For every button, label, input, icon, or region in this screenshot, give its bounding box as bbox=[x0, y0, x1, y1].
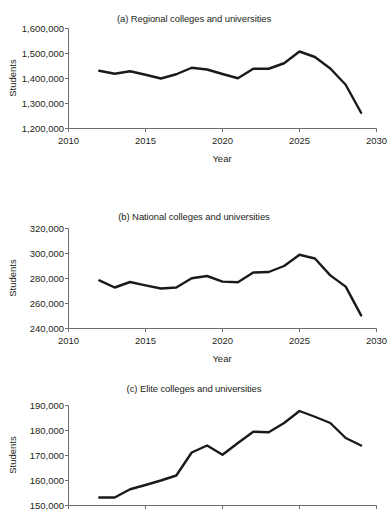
panel-a-xtick-0: 2010 bbox=[58, 135, 79, 146]
panel-a-xtick-1: 2015 bbox=[135, 135, 156, 146]
panel-a-ytick-2: 1,400,000 bbox=[22, 73, 64, 84]
panel-a-ytick-3: 1,500,000 bbox=[22, 48, 64, 59]
panel-c-ytick-4: 190,000 bbox=[30, 400, 64, 411]
panel-c-series-line bbox=[99, 411, 361, 498]
panel-c-ylabel: Students bbox=[7, 436, 18, 474]
panel-c-ytick-2: 170,000 bbox=[30, 450, 64, 461]
panel-b-ytick-2: 280,000 bbox=[30, 273, 64, 284]
panel-b-ylabel: Students bbox=[7, 259, 18, 297]
panel-a-plot: 1,600,000 1,500,000 1,400,000 1,300,000 … bbox=[0, 0, 388, 180]
panel-b-series-line bbox=[99, 255, 361, 316]
panel-c-ytick-0: 150,000 bbox=[30, 500, 64, 511]
panel-c-ytick-3: 180,000 bbox=[30, 425, 64, 436]
panel-a-xtick-3: 2025 bbox=[289, 135, 310, 146]
panel-b-ytick-0: 240,000 bbox=[30, 323, 64, 334]
panel-b-xlabel: Year bbox=[212, 353, 231, 364]
panel-a-xtick-4: 2030 bbox=[366, 135, 387, 146]
panel-a-series-line bbox=[99, 52, 361, 113]
panel-a-ytick-4: 1,600,000 bbox=[22, 23, 64, 34]
chart-panel-c: (c) Elite colleges and universities 190,… bbox=[0, 365, 388, 522]
panel-b-xtick-4: 2030 bbox=[366, 335, 387, 346]
panel-b-xtick-3: 2025 bbox=[289, 335, 310, 346]
chart-panel-a: (a) Regional colleges and universities 1… bbox=[0, 0, 388, 180]
panel-b-ytick-4: 320,000 bbox=[30, 223, 64, 234]
panel-a-ylabel: Students bbox=[7, 59, 18, 97]
chart-panel-b: (b) National colleges and universities 3… bbox=[0, 180, 388, 365]
panel-b-ytick-3: 300,000 bbox=[30, 248, 64, 259]
three-panel-line-chart-figure: (a) Regional colleges and universities 1… bbox=[0, 0, 388, 522]
panel-b-xtick-2: 2020 bbox=[212, 335, 233, 346]
panel-b-ytick-1: 260,000 bbox=[30, 298, 64, 309]
panel-c-plot: 190,000 180,000 170,000 160,000 150,000 … bbox=[0, 365, 388, 522]
panel-b-plot: 320,000 300,000 280,000 260,000 240,000 … bbox=[0, 180, 388, 365]
panel-c-ytick-1: 160,000 bbox=[30, 475, 64, 486]
panel-a-xtick-2: 2020 bbox=[212, 135, 233, 146]
panel-a-xlabel: Year bbox=[212, 153, 231, 164]
panel-b-xtick-0: 2010 bbox=[58, 335, 79, 346]
panel-b-xtick-1: 2015 bbox=[135, 335, 156, 346]
panel-a-ytick-0: 1,200,000 bbox=[22, 123, 64, 134]
panel-a-ytick-1: 1,300,000 bbox=[22, 98, 64, 109]
